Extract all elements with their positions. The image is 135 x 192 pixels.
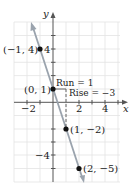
point-0-1 [50, 86, 55, 91]
point-label-0-1: (0, 1) [24, 84, 51, 95]
y-tick-4: 4 [44, 44, 50, 55]
x-tick-4: 4 [102, 103, 108, 114]
x-axis-label: x [123, 103, 129, 114]
point-label-2-neg5: (2, −5) [83, 163, 118, 174]
x-tick-2: 2 [76, 103, 82, 114]
run-label: Run = 1 [56, 78, 93, 88]
point-1-neg2 [63, 126, 68, 131]
y-axis-label: y [42, 8, 49, 19]
y-tick-neg4: −4 [35, 150, 50, 161]
point-label-neg1-4: (−1, 4) [3, 44, 38, 55]
y-axis [51, 12, 56, 182]
point-label-1-neg2: (1, −2) [70, 124, 105, 135]
x-tick-neg2: −2 [21, 103, 36, 114]
chart: y x −2 2 4 4 −4 (−1, 4) (0, 1) (1, −2) (… [0, 0, 135, 192]
rise-label: Rise = −3 [69, 88, 115, 98]
point-2-neg5 [76, 166, 81, 171]
